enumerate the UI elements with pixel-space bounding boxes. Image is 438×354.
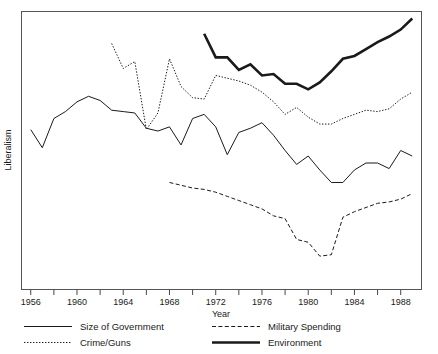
line-chart-canvas: 195619601964196819721976198019841988 Yea… bbox=[0, 0, 438, 354]
x-axis-title: Year bbox=[212, 309, 230, 319]
x-axis-tick-label: 1988 bbox=[391, 297, 411, 307]
legend-label-environment: Environment bbox=[268, 337, 322, 348]
legend-label-size-of-government: Size of Government bbox=[80, 321, 164, 332]
x-axis-tick-label: 1972 bbox=[206, 297, 226, 307]
x-axis-tick-label: 1956 bbox=[21, 297, 41, 307]
x-axis-tick-label: 1968 bbox=[159, 297, 179, 307]
x-axis-tick-label: 1984 bbox=[344, 297, 364, 307]
x-axis-tick-label: 1960 bbox=[67, 297, 87, 307]
x-axis-tick-labels: 195619601964196819721976198019841988 bbox=[21, 297, 411, 307]
legend-label-crime-guns: Crime/Guns bbox=[80, 337, 131, 348]
chart-figure: 195619601964196819721976198019841988 Yea… bbox=[0, 0, 438, 354]
y-axis-title: Liberalism bbox=[3, 129, 13, 170]
legend-label-military-spending: Military Spending bbox=[268, 321, 341, 332]
x-axis-tick-label: 1964 bbox=[113, 297, 133, 307]
x-axis-tick-label: 1980 bbox=[298, 297, 318, 307]
x-axis-tick-label: 1976 bbox=[252, 297, 272, 307]
